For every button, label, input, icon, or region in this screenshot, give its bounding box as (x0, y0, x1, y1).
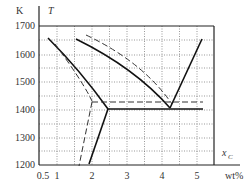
svg-text:5: 5 (195, 170, 200, 181)
svg-text:2: 2 (90, 170, 95, 181)
svg-text:1: 1 (55, 170, 60, 181)
svg-text:0.5: 0.5 (37, 170, 50, 181)
liquidus-left-dashed (55, 44, 92, 101)
axes (39, 6, 240, 165)
svg-text:1400: 1400 (15, 104, 35, 115)
upper-liquidus-dashed (86, 35, 172, 104)
svg-text:1700: 1700 (15, 20, 35, 31)
x-unit-label: wt% (225, 170, 243, 181)
svg-text:1600: 1600 (15, 49, 35, 60)
y-variable-label: T (48, 5, 55, 16)
svg-text:4: 4 (160, 170, 165, 181)
x-tick-labels: 0.5 1 2 3 4 5 (37, 170, 200, 181)
phase-diagram: 1700 1600 1500 1400 1300 1200 0.5 1 2 3 … (0, 0, 246, 188)
x-variable-label: x C (221, 147, 233, 161)
svg-text:C: C (228, 153, 233, 161)
y-tick-labels: 1700 1600 1500 1400 1300 1200 (15, 20, 35, 170)
solidus-dashed (79, 102, 92, 166)
grid (39, 26, 214, 165)
svg-text:1200: 1200 (15, 159, 35, 170)
svg-text:1500: 1500 (15, 76, 35, 87)
y-unit-label: K (16, 5, 24, 16)
svg-text:3: 3 (125, 170, 130, 181)
svg-text:1300: 1300 (15, 132, 35, 143)
svg-text:x: x (221, 147, 227, 158)
